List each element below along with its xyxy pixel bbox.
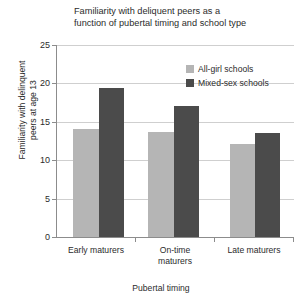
bar-ontime-mixed-sex [174,106,199,237]
chart-legend: All-girl schools Mixed-sex schools [186,62,269,90]
bar-chart: Familiarity with deliquent peers as a fu… [0,0,307,303]
y-tick-label-25: 25 [40,40,50,50]
x-axis-label: Pubertal timing [96,283,226,293]
legend-label-mixed-sex-schools: Mixed-sex schools [198,78,269,88]
legend-swatch-all-girl-schools [186,65,194,73]
y-tick-label-5: 5 [45,194,50,204]
x-category-label-late: Late maturers [208,245,300,256]
y-tick-label-0: 0 [45,232,50,242]
bar-late-mixed-sex [255,133,280,237]
y-axis-label: Familiarity with delinquent peers at age… [15,30,41,190]
bar-early-all-girl [73,129,99,237]
legend-item-mixed-sex-schools: Mixed-sex schools [186,76,269,89]
category-separator-2 [214,237,215,242]
legend-label-all-girl-schools: All-girl schools [198,64,253,74]
y-tick-label-10: 10 [40,155,50,165]
category-separator-3 [293,237,294,242]
category-separator-1 [135,237,136,242]
chart-title: Familiarity with deliquent peers as a fu… [74,5,274,29]
y-axis-line [56,45,57,237]
x-axis-line [56,237,294,238]
legend-item-all-girl-schools: All-girl schools [186,62,269,75]
y-tick-label-15: 15 [40,117,50,127]
bar-ontime-all-girl [148,132,174,237]
bar-late-all-girl [230,144,255,237]
y-tick-label-20: 20 [40,78,50,88]
bar-early-mixed-sex [99,88,124,237]
legend-swatch-mixed-sex-schools [186,79,194,87]
gridline-25 [56,45,294,46]
